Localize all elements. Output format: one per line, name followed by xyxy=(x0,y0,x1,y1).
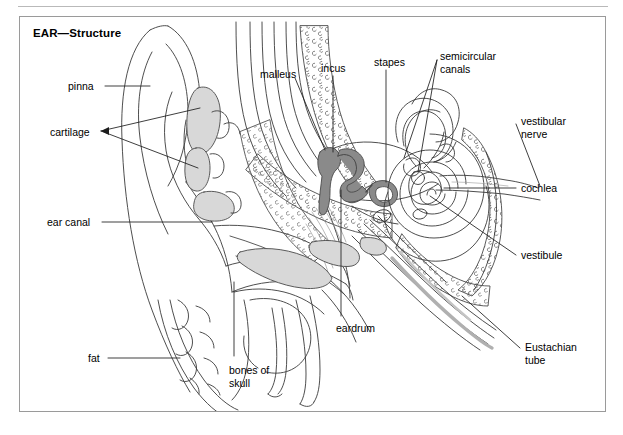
label-semicircular-canals: semicircular canals xyxy=(440,50,496,75)
semicircular-canals xyxy=(396,89,459,176)
leader-eustachian-tube xyxy=(462,296,520,348)
label-bones-of-skull: bones of skull xyxy=(229,364,269,389)
pinna-outline xyxy=(122,26,201,392)
label-stapes: stapes xyxy=(374,56,405,69)
leader-cartilage-arrow xyxy=(101,127,109,135)
label-vestibular-nerve: vestibular nerve xyxy=(521,115,566,140)
label-eustachian-tube: Eustachian tube xyxy=(525,341,577,366)
label-pinna: pinna xyxy=(68,80,94,93)
label-cochlea: cochlea xyxy=(521,182,557,195)
label-malleus: malleus xyxy=(260,68,296,81)
label-ear-canal: ear canal xyxy=(47,216,90,229)
cartilage-shapes xyxy=(185,87,241,221)
lower-skull-structures xyxy=(158,280,370,418)
leader-semicircular-1 xyxy=(404,60,437,158)
label-incus: incus xyxy=(321,62,346,75)
label-vestibule: vestibule xyxy=(521,249,562,262)
canal-soft-tissue xyxy=(237,237,386,288)
figure-page: EAR—Structure xyxy=(0,0,623,435)
stapes-bone xyxy=(369,181,398,207)
label-eardrum: eardrum xyxy=(336,322,375,335)
label-fat: fat xyxy=(88,352,100,365)
ear-anatomy-illustration xyxy=(0,0,623,435)
label-cartilage: cartilage xyxy=(50,126,90,139)
